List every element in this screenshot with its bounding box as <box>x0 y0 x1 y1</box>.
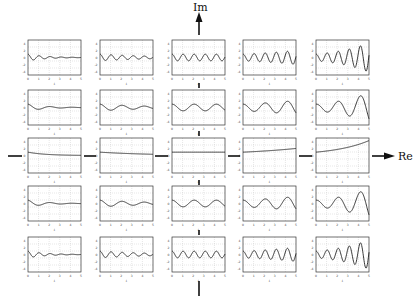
subplot-row1-col4: 420-2-4012345t <box>238 40 298 86</box>
x-tick-label: 1 <box>38 175 40 179</box>
y-tick-label: -2 <box>23 113 26 117</box>
y-tick-label: 4 <box>168 42 170 46</box>
response-curve <box>100 152 153 154</box>
y-tick-label: 0 <box>312 56 314 60</box>
y-tick-label: -2 <box>311 209 314 213</box>
y-tick-label: -2 <box>167 209 170 213</box>
x-tick-label: 1 <box>182 127 184 131</box>
y-tick-label: -2 <box>238 161 241 165</box>
x-axis-label: t <box>342 132 344 136</box>
y-tick-label: 2 <box>168 147 170 151</box>
subplot-row5-col3: 420-2-4012345t <box>167 237 227 283</box>
x-tick-label: 2 <box>192 175 194 179</box>
x-axis-label: t <box>54 180 56 184</box>
x-axis-label: t <box>269 228 271 232</box>
x-tick-label: 1 <box>326 274 328 278</box>
y-tick-label: -2 <box>95 63 98 67</box>
y-tick-label: 0 <box>96 56 98 60</box>
x-tick-label: 3 <box>274 175 276 179</box>
y-tick-label: 2 <box>239 147 241 151</box>
x-axis-label: t <box>126 82 128 86</box>
y-tick-label: 2 <box>239 49 241 53</box>
y-tick-label: 2 <box>168 99 170 103</box>
y-tick-label: 4 <box>312 42 314 46</box>
x-tick-label: 1 <box>326 127 328 131</box>
imag-axis-label: Im <box>193 1 208 14</box>
x-tick-label: 5 <box>224 274 226 278</box>
x-tick-label: 0 <box>27 127 29 131</box>
x-tick-label: 0 <box>315 175 317 179</box>
y-tick-label: 2 <box>312 195 314 199</box>
x-tick-label: 2 <box>120 223 122 227</box>
y-tick-label: -2 <box>238 260 241 264</box>
y-tick-label: 4 <box>168 239 170 243</box>
complex-axes <box>8 12 395 296</box>
x-tick-label: 4 <box>69 127 71 131</box>
y-tick-label: 0 <box>24 253 26 257</box>
x-tick-label: 5 <box>295 175 297 179</box>
x-axis-label: t <box>54 279 56 283</box>
x-axis-label: t <box>342 82 344 86</box>
x-tick-label: 0 <box>27 223 29 227</box>
x-tick-label: 5 <box>368 223 370 227</box>
x-tick-label: 0 <box>27 274 29 278</box>
y-tick-label: 4 <box>24 42 26 46</box>
x-tick-label: 4 <box>141 274 143 278</box>
y-tick-label: 2 <box>312 49 314 53</box>
x-tick-label: 5 <box>80 274 82 278</box>
x-tick-label: 0 <box>99 175 101 179</box>
y-tick-label: -4 <box>95 120 98 124</box>
y-tick-label: -2 <box>238 209 241 213</box>
y-tick-label: 0 <box>312 253 314 257</box>
x-tick-label: 2 <box>336 223 338 227</box>
x-tick-label: 4 <box>284 77 286 81</box>
subplot-row4-col4: 420-2-4012345t <box>238 186 298 232</box>
x-tick-label: 4 <box>141 127 143 131</box>
x-axis-label: t <box>269 82 271 86</box>
x-tick-label: 3 <box>274 223 276 227</box>
y-tick-label: -4 <box>23 267 26 271</box>
y-tick-label: 4 <box>312 188 314 192</box>
x-tick-label: 1 <box>110 274 112 278</box>
x-tick-label: 2 <box>192 274 194 278</box>
y-tick-label: -2 <box>238 113 241 117</box>
x-tick-label: 4 <box>69 274 71 278</box>
y-tick-label: 4 <box>168 92 170 96</box>
x-tick-label: 4 <box>213 175 215 179</box>
x-tick-label: 3 <box>131 127 133 131</box>
x-tick-label: 2 <box>48 274 50 278</box>
x-tick-label: 4 <box>213 77 215 81</box>
x-tick-label: 0 <box>315 223 317 227</box>
x-tick-label: 0 <box>99 127 101 131</box>
subplot-row2-col4: 420-2-4012345t <box>238 90 298 136</box>
x-tick-label: 0 <box>315 77 317 81</box>
y-tick-label: 2 <box>168 195 170 199</box>
subplot-row4-col2: 420-2-4012345t <box>95 186 155 232</box>
y-tick-label: 0 <box>24 154 26 158</box>
plot-frame <box>243 186 296 221</box>
x-tick-label: 2 <box>48 77 50 81</box>
y-tick-label: 0 <box>239 253 241 257</box>
x-tick-label: 5 <box>152 274 154 278</box>
x-tick-label: 1 <box>253 274 255 278</box>
y-tick-label: 4 <box>24 92 26 96</box>
x-tick-label: 4 <box>141 175 143 179</box>
y-tick-label: -4 <box>167 267 170 271</box>
x-tick-label: 3 <box>203 175 205 179</box>
y-tick-label: -4 <box>95 267 98 271</box>
x-tick-label: 2 <box>263 223 265 227</box>
y-tick-label: 0 <box>96 202 98 206</box>
y-tick-label: -4 <box>95 168 98 172</box>
response-curve <box>316 243 369 268</box>
x-tick-label: 2 <box>336 175 338 179</box>
y-tick-label: 4 <box>24 239 26 243</box>
y-tick-label: -2 <box>311 63 314 67</box>
x-axis-label: t <box>269 279 271 283</box>
plot-frame <box>100 138 153 173</box>
x-tick-label: 3 <box>203 127 205 131</box>
x-tick-label: 4 <box>141 223 143 227</box>
x-axis-label: t <box>342 228 344 232</box>
x-tick-label: 0 <box>315 127 317 131</box>
y-tick-label: 4 <box>239 239 241 243</box>
x-tick-label: 5 <box>80 175 82 179</box>
